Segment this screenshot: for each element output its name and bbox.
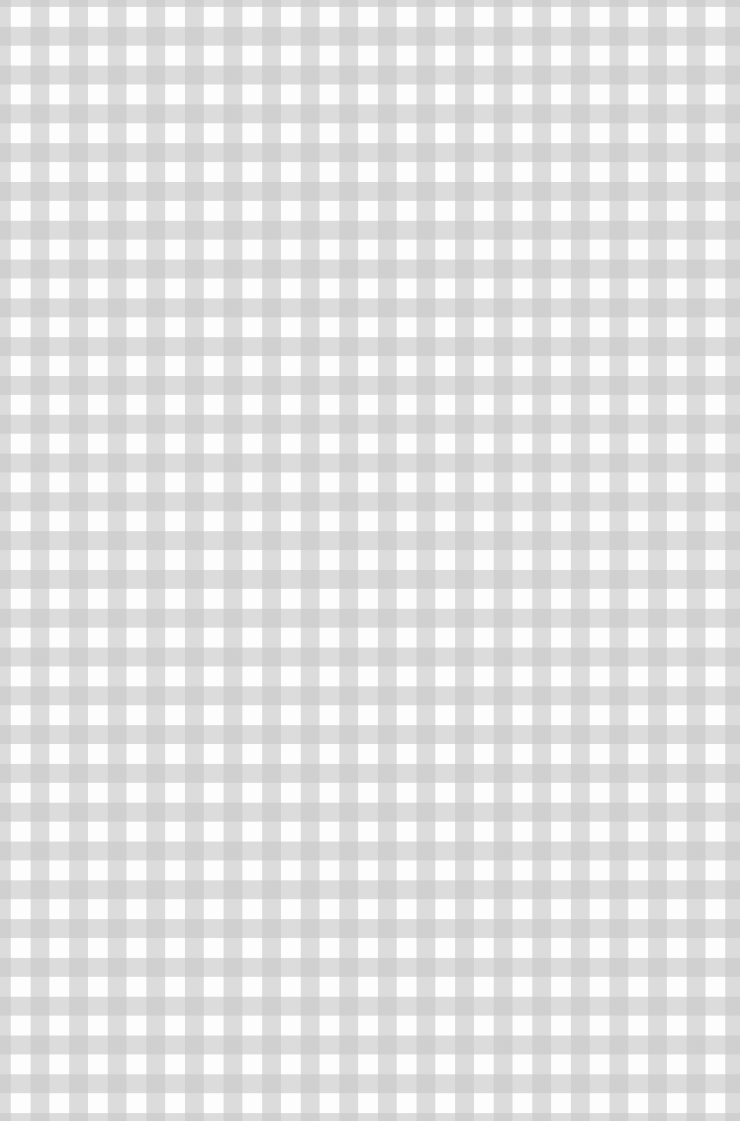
gingham-fabric-texture: gingham check fabric pattern bbox=[0, 0, 740, 1121]
